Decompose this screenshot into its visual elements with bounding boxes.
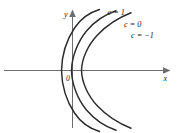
x-axis-arrowhead — [163, 67, 171, 74]
y-axis-label: y — [63, 10, 68, 19]
level-curve-plot: c = 1 c = 0 c = −1 y x 0 — [0, 0, 177, 133]
x-axis-label: x — [163, 74, 168, 83]
level-label-c1: c = 1 — [108, 8, 125, 17]
level-label-cneg1: c = −1 — [131, 31, 154, 40]
y-axis-arrowhead — [69, 10, 76, 18]
origin-label: 0 — [66, 74, 70, 83]
level-label-c0: c = 0 — [124, 20, 141, 29]
figure-canvas: c = 1 c = 0 c = −1 y x 0 — [0, 0, 177, 133]
